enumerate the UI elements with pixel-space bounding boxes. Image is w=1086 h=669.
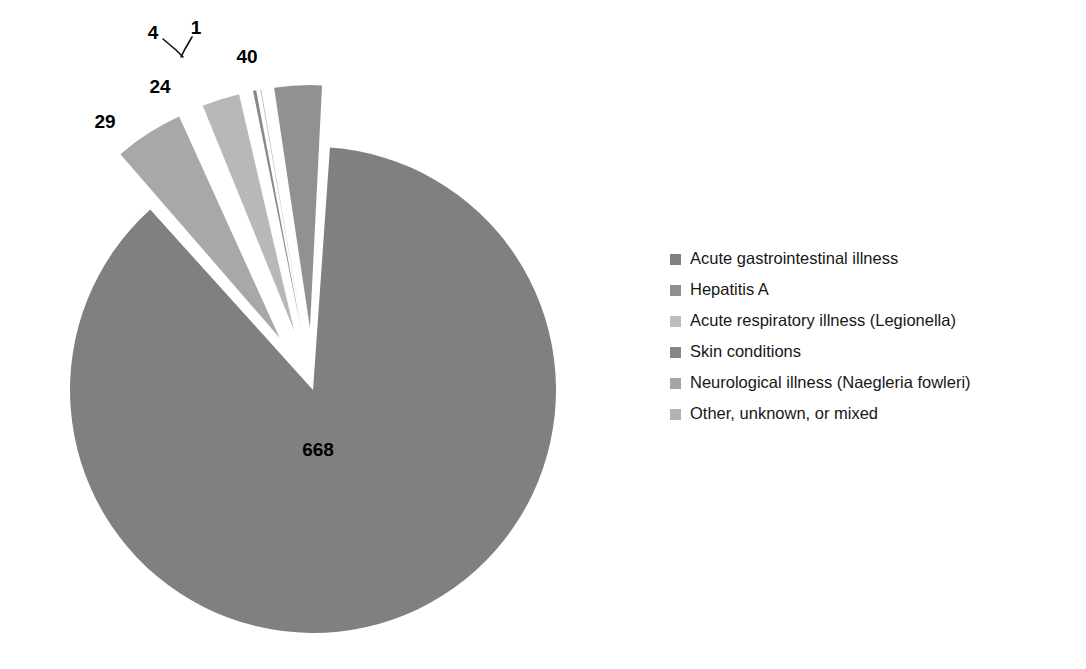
leader-line-skin-conditions <box>163 39 183 57</box>
legend-swatch-icon <box>670 254 681 265</box>
pie-data-label: 1 <box>191 17 202 38</box>
legend-swatch-icon <box>670 316 681 327</box>
pie-chart-figure: 66840244129 Acute gastrointestinal illne… <box>0 0 1086 669</box>
legend-item-label: Neurological illness (Naegleria fowleri) <box>690 374 971 391</box>
legend-swatch-icon <box>670 378 681 389</box>
legend-swatch-icon <box>670 347 681 358</box>
legend-item-label: Hepatitis A <box>690 281 769 298</box>
legend-item-label: Other, unknown, or mixed <box>690 405 878 422</box>
leader-line-neurological-illness <box>181 37 192 57</box>
legend-item[interactable]: Skin conditions <box>670 336 1040 367</box>
legend-item-label: Acute respiratory illness (Legionella) <box>690 312 956 329</box>
legend-item[interactable]: Other, unknown, or mixed <box>670 398 1040 429</box>
data-label-leader-lines <box>163 37 192 57</box>
pie-data-label: 40 <box>236 46 257 67</box>
legend-item[interactable]: Acute respiratory illness (Legionella) <box>670 305 1040 336</box>
legend-item[interactable]: Hepatitis A <box>670 274 1040 305</box>
pie-data-label: 29 <box>94 111 115 132</box>
legend-item[interactable]: Neurological illness (Naegleria fowleri) <box>670 367 1040 398</box>
pie-data-label: 24 <box>149 76 171 97</box>
chart-legend: Acute gastrointestinal illnessHepatitis … <box>670 243 1040 429</box>
legend-item-label: Acute gastrointestinal illness <box>690 250 898 267</box>
legend-item-label: Skin conditions <box>690 343 801 360</box>
pie-slice-group <box>70 85 556 633</box>
legend-swatch-icon <box>670 409 681 420</box>
legend-item[interactable]: Acute gastrointestinal illness <box>670 243 1040 274</box>
pie-data-label: 668 <box>302 439 334 460</box>
pie-data-label: 4 <box>148 22 159 43</box>
legend-swatch-icon <box>670 285 681 296</box>
